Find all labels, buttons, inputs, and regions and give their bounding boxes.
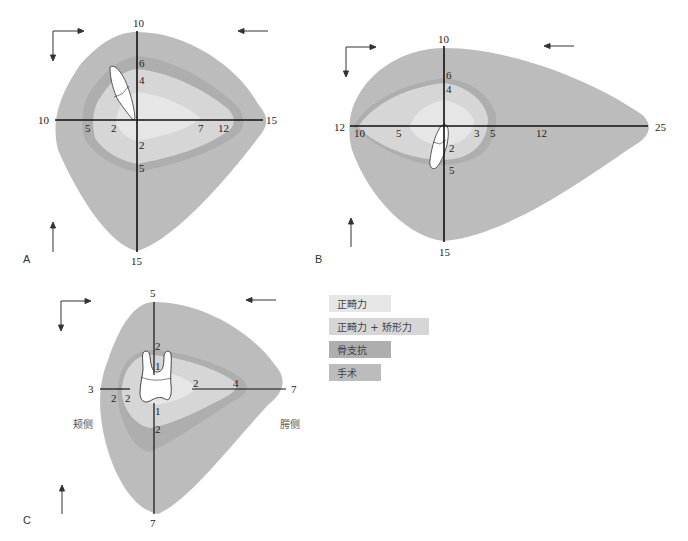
buccal-side-label: 颊侧: [73, 418, 93, 430]
a-bottom-label: 15: [131, 255, 143, 267]
panel-letter-a: A: [23, 253, 31, 265]
tooth-movement-envelope-figure: 10 15 10 15 6 4 5 2 7 12 2 5 A 10 15 12 …: [0, 0, 688, 541]
c-label-2d: 2: [155, 423, 161, 435]
c-label-1u: 1: [155, 360, 161, 372]
b-label-12: 12: [536, 127, 547, 139]
panel-c: 5 7 3 7 2 1 2 2 2 4 1 2 颊侧 腭侧 C: [23, 287, 300, 529]
a-right-label: 15: [266, 114, 278, 126]
b-label-5d: 5: [449, 164, 455, 176]
b-label-3: 3: [474, 127, 480, 139]
b-label-4: 4: [446, 83, 452, 95]
legend-label: 正畸力: [337, 296, 367, 311]
legend-item-skeletal-anchorage: 骨支抗: [329, 341, 391, 358]
b-label-6: 6: [446, 69, 452, 81]
a-top-label: 10: [133, 17, 145, 29]
c-bottom-label: 7: [150, 517, 156, 529]
legend-label: 手术: [337, 365, 357, 380]
legend: 正畸力 正畸力 + 矫形力 骨支抗 手术: [329, 295, 429, 387]
a-label-7: 7: [198, 122, 204, 134]
b-top-label: 10: [438, 33, 450, 45]
a-label-5d: 5: [139, 162, 145, 174]
a-left-label: 10: [38, 114, 50, 126]
b-bottom-label: 15: [439, 246, 451, 258]
c-left-label: 3: [88, 383, 94, 395]
c-label-1d: 1: [155, 405, 161, 417]
c-label-2la: 2: [111, 392, 117, 404]
b-label-2d: 2: [449, 142, 455, 154]
c-label-4: 4: [233, 377, 239, 389]
c-label-2lb: 2: [125, 392, 131, 404]
c-label-2u: 2: [155, 340, 161, 352]
b-right-label: 25: [655, 121, 667, 133]
legend-item-orthodontic: 正畸力: [329, 295, 391, 312]
a-label-5l: 5: [85, 122, 91, 134]
a-label-2d: 2: [139, 139, 145, 151]
panel-a: 10 15 10 15 6 4 5 2 7 12 2 5 A: [23, 17, 278, 267]
c-label-2r: 2: [193, 377, 199, 389]
a-label-4: 4: [139, 74, 145, 86]
b-left-label: 12: [334, 121, 345, 133]
palatal-side-label: 腭侧: [280, 418, 300, 430]
legend-item-surgery: 手术: [329, 364, 381, 381]
panel-b: 10 15 12 25 6 4 10 5 3 5 12 2 5 B: [315, 33, 667, 265]
legend-item-orthodontic-orthopedic: 正畸力 + 矫形力: [329, 318, 429, 335]
c-top-label: 5: [150, 287, 156, 299]
legend-label: 骨支抗: [337, 342, 367, 357]
b-label-5r: 5: [490, 127, 496, 139]
c-right-label: 7: [291, 383, 297, 395]
b-label-10: 10: [354, 127, 366, 139]
b-label-5l: 5: [396, 127, 402, 139]
a-label-2l: 2: [111, 122, 117, 134]
panel-letter-b: B: [315, 253, 322, 265]
legend-label: 正畸力 + 矫形力: [337, 319, 412, 334]
a-label-6: 6: [139, 57, 145, 69]
a-label-12: 12: [218, 122, 229, 134]
panel-letter-c: C: [23, 514, 31, 526]
